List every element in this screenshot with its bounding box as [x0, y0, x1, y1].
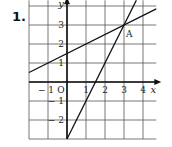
point-label-A: A [125, 29, 133, 39]
x-tick-label: 4 [140, 85, 146, 95]
plot-line-2 [67, 0, 136, 139]
y-tick-label: 1 [58, 58, 64, 68]
y-axis-label: y [57, 0, 64, 9]
coordinate-graph: − 11234321− 1− 2OxyA [0, 0, 172, 147]
origin-label: O [57, 85, 64, 95]
x-tick-label: 3 [121, 85, 127, 95]
y-tick-label: − 2 [48, 115, 64, 125]
y-axis-arrow-icon [64, 0, 70, 4]
y-tick-label: 3 [58, 20, 64, 30]
y-tick-label: − 1 [48, 96, 64, 106]
y-tick-label: 2 [58, 39, 64, 49]
x-axis-label: x [150, 84, 156, 95]
x-tick-label: 1 [83, 85, 89, 95]
x-tick-label: − 1 [38, 85, 54, 95]
x-tick-label: 2 [102, 85, 108, 95]
